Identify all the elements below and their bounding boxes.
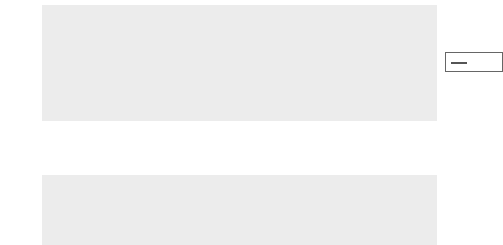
chart-lines — [0, 0, 495, 238]
